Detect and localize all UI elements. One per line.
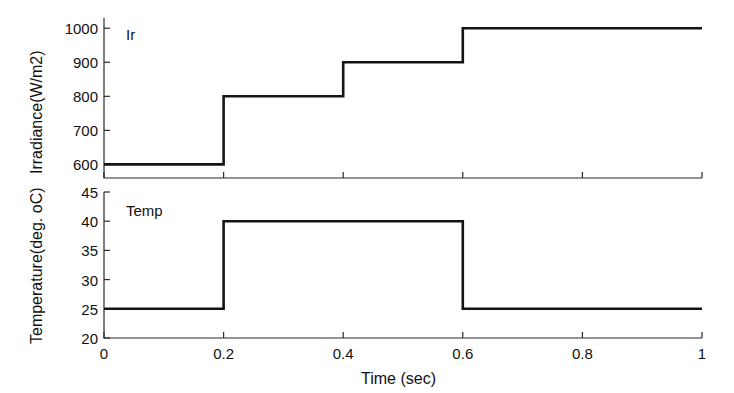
irradiance-axes xyxy=(104,18,702,178)
y-tick-label: 600 xyxy=(52,157,98,172)
temperature-series-annotation: Temp xyxy=(126,202,163,219)
x-tick-label: 0.8 xyxy=(572,346,593,361)
irradiance-series-annotation: Ir xyxy=(126,26,135,43)
x-tick-label: 1 xyxy=(698,346,706,361)
y-tick-label: 35 xyxy=(52,243,98,258)
y-tick-label: 700 xyxy=(52,123,98,138)
temperature-y-axis-title: Temperature(deg. oC) xyxy=(28,187,46,344)
y-tick-label: 40 xyxy=(52,214,98,229)
y-tick-label: 800 xyxy=(52,89,98,104)
temperature-axes xyxy=(104,192,702,338)
y-tick-label: 45 xyxy=(52,185,98,200)
data-series-line xyxy=(104,28,702,164)
plot-canvas xyxy=(0,0,734,393)
x-tick-label: 0.4 xyxy=(333,346,354,361)
figure-container: Irradiance(W/m2) Ir 6007008009001000 Tem… xyxy=(0,0,734,393)
x-tick-label: 0.6 xyxy=(452,346,473,361)
y-tick-label: 1000 xyxy=(52,21,98,36)
y-tick-label: 20 xyxy=(52,331,98,346)
irradiance-y-axis-title: Irradiance(W/m2) xyxy=(28,50,46,174)
time-x-axis-title: Time (sec) xyxy=(361,370,436,388)
y-tick-label: 25 xyxy=(52,301,98,316)
y-tick-label: 900 xyxy=(52,55,98,70)
y-tick-label: 30 xyxy=(52,272,98,287)
x-tick-label: 0.2 xyxy=(213,346,234,361)
data-series-line xyxy=(104,221,702,309)
x-tick-label: 0 xyxy=(100,346,108,361)
